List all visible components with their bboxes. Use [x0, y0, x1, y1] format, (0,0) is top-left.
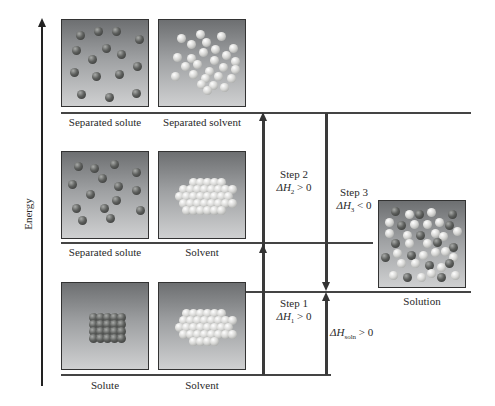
molecule-icon — [193, 60, 202, 69]
step1-sub: 1 — [291, 317, 295, 325]
molecule-icon — [112, 27, 121, 36]
molecule-icon — [405, 239, 414, 248]
molecule-icon — [389, 271, 398, 280]
molecule-icon — [231, 65, 240, 74]
solvent-bottom-box — [158, 282, 246, 370]
molecule-icon — [181, 62, 190, 71]
dh-soln-dh: ΔH — [330, 326, 344, 338]
molecule-icon — [391, 239, 400, 248]
molecule-icon — [114, 182, 123, 191]
separated-solute-top-box — [61, 19, 149, 107]
step3-enthalpy: ΔH3 < 0 — [328, 199, 380, 217]
dh-soln-arrow-line — [325, 300, 328, 375]
molecule-icon — [417, 273, 426, 282]
molecule-icon — [77, 90, 86, 99]
molecule-icon — [427, 208, 436, 217]
level-line-bottom — [61, 374, 331, 376]
solute-bottom-box — [61, 282, 149, 370]
molecule-icon — [445, 259, 454, 268]
molecule-icon — [74, 162, 83, 171]
step2-title: Step 2 — [266, 168, 322, 181]
molecule-icon — [229, 44, 238, 53]
step3-label: Step 3 ΔH3 < 0 — [328, 186, 380, 217]
molecule-icon — [405, 210, 414, 219]
molecule-icon — [68, 180, 77, 189]
molecule-icon — [423, 239, 432, 248]
solution-box — [378, 200, 466, 288]
molecule-icon — [98, 174, 107, 183]
molecule-icon — [403, 273, 412, 282]
molecule-icon — [135, 35, 144, 44]
energy-axis-arrow-icon — [38, 18, 46, 27]
label-separated-solute-top: Separated solute — [61, 116, 149, 128]
molecule-icon — [132, 186, 141, 195]
molecule-icon — [78, 216, 87, 225]
molecule-icon — [132, 89, 141, 98]
molecule-icon — [423, 220, 432, 229]
molecule-icon — [88, 55, 97, 64]
label-solution: Solution — [378, 295, 466, 307]
molecule-icon — [102, 44, 111, 53]
molecule-icon — [415, 210, 424, 219]
step3-title: Step 3 — [328, 186, 380, 199]
step2-dh: ΔH — [276, 181, 290, 193]
dh-soln-arrow-head-icon — [322, 292, 330, 301]
step2-label: Step 2 ΔH2 > 0 — [266, 168, 322, 199]
molecule-icon — [112, 196, 121, 205]
molecule-icon — [217, 206, 226, 215]
molecule-icon — [199, 48, 208, 57]
molecule-icon — [217, 32, 226, 41]
step1-enthalpy: ΔH1 > 0 — [266, 310, 322, 328]
molecule-icon — [433, 238, 442, 247]
molecule-icon — [76, 31, 85, 40]
label-solute-bottom: Solute — [61, 379, 149, 391]
molecule-icon — [136, 206, 145, 215]
molecule-icon — [72, 204, 81, 213]
molecule-icon — [115, 70, 124, 79]
step2-arrow-line — [262, 120, 265, 244]
molecule-icon — [94, 27, 103, 36]
molecule-icon — [214, 72, 223, 81]
molecule-icon — [90, 164, 99, 173]
step2-sub: 2 — [291, 188, 295, 196]
molecule-icon — [177, 34, 186, 43]
molecule-icon — [435, 218, 444, 227]
molecule-icon — [219, 63, 228, 72]
step3-arrow-head-icon — [322, 282, 330, 291]
dh-soln-cond: > 0 — [359, 326, 373, 338]
step1-label: Step 1 ΔH1 > 0 — [266, 297, 322, 328]
molecule-icon — [385, 218, 394, 227]
dh-soln-label: ΔHsoln > 0 — [330, 326, 400, 344]
molecule-icon — [393, 249, 402, 258]
step3-dh: ΔH — [336, 199, 350, 211]
molecule-icon — [173, 53, 182, 62]
molecule-icon — [410, 220, 419, 229]
molecule-icon — [132, 168, 141, 177]
molecule-icon — [228, 199, 237, 208]
energy-axis — [41, 26, 43, 386]
step1-title: Step 1 — [266, 297, 322, 310]
step2-enthalpy: ΔH2 > 0 — [266, 181, 322, 199]
molecule-icon — [227, 74, 236, 83]
molecule-icon — [391, 207, 400, 216]
molecule-icon — [449, 243, 458, 252]
label-solvent-bottom: Solvent — [158, 379, 246, 391]
label-solvent-middle: Solvent — [158, 246, 246, 258]
molecule-icon — [70, 68, 79, 77]
energy-axis-label: Energy — [22, 198, 34, 230]
molecule-icon — [220, 83, 229, 92]
step1-arrow-head-icon — [259, 244, 267, 253]
label-separated-solvent-top: Separated solvent — [158, 116, 246, 128]
molecule-icon — [210, 56, 219, 65]
molecule-icon — [411, 259, 420, 268]
molecule-icon — [448, 210, 457, 219]
molecule-icon — [110, 160, 119, 169]
molecule-icon — [419, 251, 428, 260]
molecule-icon — [210, 337, 219, 346]
step1-cond: > 0 — [297, 310, 311, 322]
level-line-solution — [246, 291, 471, 293]
molecule-icon — [133, 62, 142, 71]
molecule-icon — [228, 330, 237, 339]
molecule-icon — [385, 229, 394, 238]
separated-solute-middle-box — [61, 151, 149, 239]
